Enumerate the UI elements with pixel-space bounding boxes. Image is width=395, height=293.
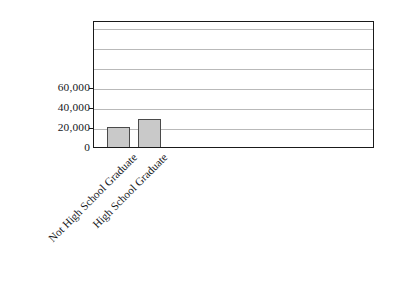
y-tick-label: 60,000 — [2, 82, 90, 93]
y-axis: 020,00040,00060,000 — [0, 0, 90, 293]
gridline — [94, 29, 373, 30]
gridline — [94, 109, 373, 110]
gridline — [94, 69, 373, 70]
bar[interactable] — [107, 127, 130, 147]
y-tick-label: 0 — [2, 142, 90, 153]
bar-chart-figure: 020,00040,00060,000 Not High School Grad… — [0, 0, 395, 293]
gridline — [94, 129, 373, 130]
gridline — [94, 49, 373, 50]
y-tick-label: 40,000 — [2, 102, 90, 113]
plot-area — [93, 21, 374, 148]
y-tick-label: 20,000 — [2, 122, 90, 133]
gridline — [94, 89, 373, 90]
bar[interactable] — [138, 119, 161, 147]
